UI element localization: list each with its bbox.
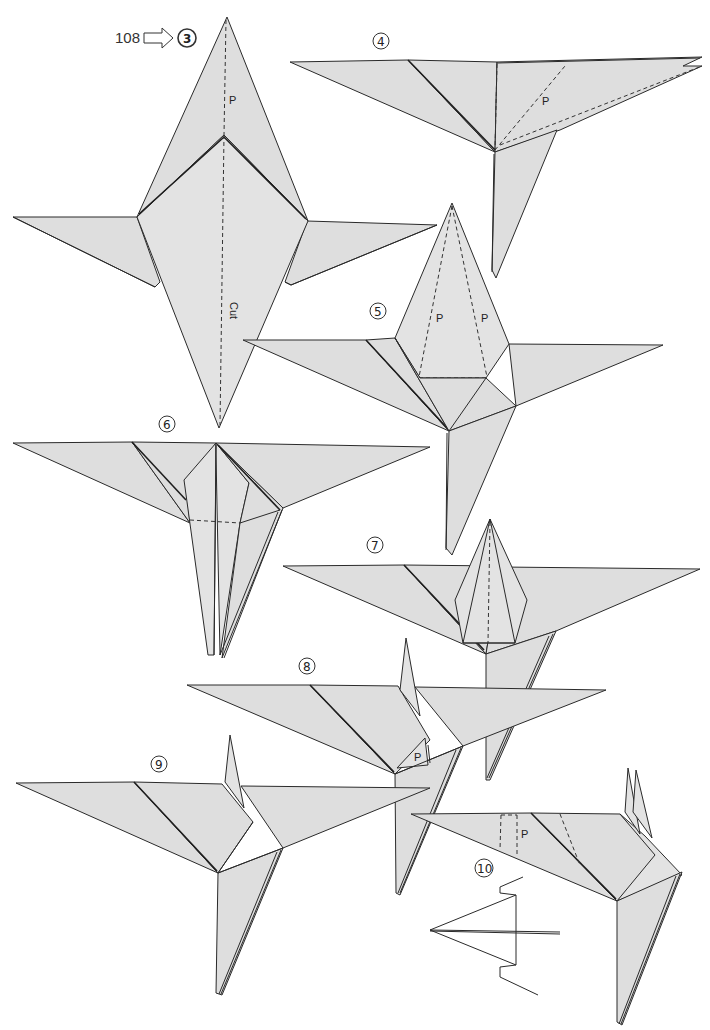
cut-label: Cut [228, 302, 240, 319]
svg-text:9: 9 [155, 758, 163, 772]
origami-diagram-page: 108 3 P Cut 4 [0, 0, 710, 1030]
step-7-number: 7 [367, 537, 383, 553]
step-9-diagram: 9 [16, 735, 430, 995]
pleat-label: P [521, 828, 528, 840]
svg-text:5: 5 [374, 305, 382, 319]
step-5-number: 5 [370, 303, 386, 319]
step-10-diagram: 10 P [411, 768, 682, 1025]
pleat-label: P [542, 95, 549, 107]
svg-text:7: 7 [371, 539, 379, 553]
svg-text:6: 6 [163, 418, 171, 432]
svg-text:4: 4 [377, 35, 385, 49]
reference-page-number: 108 [115, 29, 140, 46]
svg-text:3: 3 [183, 32, 191, 46]
pleat-label: P [436, 312, 443, 324]
pleat-label: P [481, 312, 488, 324]
side-view-inset [430, 877, 560, 995]
outline-arrow-icon [144, 28, 173, 48]
step-8-number: 8 [299, 658, 315, 674]
svg-text:10: 10 [477, 862, 492, 876]
step-6-diagram: 6 [13, 416, 430, 658]
step-3-number: 3 [178, 29, 196, 47]
step-4-number: 4 [373, 33, 389, 49]
reference-header: 108 3 [115, 28, 196, 48]
pleat-label: P [229, 94, 236, 106]
svg-text:8: 8 [303, 660, 311, 674]
step-9-number: 9 [151, 756, 167, 772]
pleat-label: P [414, 751, 421, 763]
step-10-number: 10 [475, 859, 493, 877]
step-6-number: 6 [159, 416, 175, 432]
